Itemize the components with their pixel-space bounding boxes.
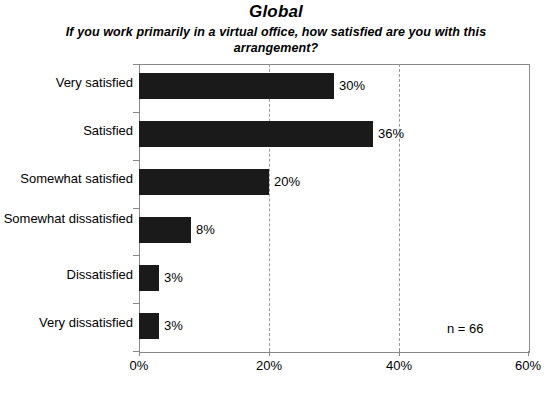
- bar-value-label: 3%: [159, 265, 183, 291]
- bar-very-satisfied[interactable]: [139, 73, 334, 99]
- y-axis-labels: Very satisfied Satisfied Somewhat satisf…: [0, 64, 133, 351]
- x-axis-tick: [269, 351, 270, 356]
- bar-value-label: 30%: [334, 73, 365, 99]
- x-axis-tick-label: 40%: [369, 358, 429, 374]
- y-axis-tick-label: Very satisfied: [0, 75, 133, 90]
- bar-dissatisfied[interactable]: [139, 265, 159, 291]
- bar-satisfied[interactable]: [139, 121, 373, 147]
- page-title: Global: [0, 0, 552, 22]
- x-axis-tick: [528, 351, 529, 356]
- x-axis-labels: 0% 20% 40% 60%: [0, 358, 552, 376]
- x-axis-tick: [399, 351, 400, 356]
- sample-size-annotation: n = 66: [447, 321, 484, 337]
- y-axis-tick: [133, 303, 139, 304]
- x-axis-tick-label: 20%: [239, 358, 299, 374]
- y-axis-tick-label: Dissatisfied: [0, 267, 133, 282]
- gridline-40: [399, 64, 400, 351]
- x-axis-tick-label: 0%: [109, 358, 169, 374]
- bar-very-dissatisfied[interactable]: [139, 313, 159, 339]
- chart-title-block: Global If you work primarily in a virtua…: [0, 0, 552, 56]
- y-axis-tick-label: Somewhat satisfied: [0, 171, 133, 186]
- plot-area: 30% 36% 20% 8% 3% 3%: [139, 64, 528, 351]
- y-axis-tick: [133, 255, 139, 256]
- bar-value-label: 20%: [269, 169, 300, 195]
- chart-subtitle: If you work primarily in a virtual offic…: [41, 24, 511, 56]
- y-axis-tick-label: Satisfied: [0, 123, 133, 138]
- y-axis-tick-label: Very dissatisfied: [0, 315, 133, 330]
- x-axis-tick: [139, 351, 140, 356]
- bar-somewhat-dissatisfied[interactable]: [139, 217, 191, 243]
- bar-value-label: 36%: [373, 121, 404, 147]
- y-axis-tick: [133, 112, 139, 113]
- y-axis-tick-label: Somewhat dissatisfied: [0, 211, 133, 226]
- x-axis-tick-label: 60%: [498, 358, 552, 374]
- y-axis-tick: [133, 160, 139, 161]
- bar-value-label: 3%: [159, 313, 183, 339]
- gridline-20: [269, 64, 270, 351]
- y-axis-tick: [133, 208, 139, 209]
- bar-somewhat-satisfied[interactable]: [139, 169, 269, 195]
- y-axis-tick: [133, 64, 139, 65]
- bar-value-label: 8%: [191, 217, 215, 243]
